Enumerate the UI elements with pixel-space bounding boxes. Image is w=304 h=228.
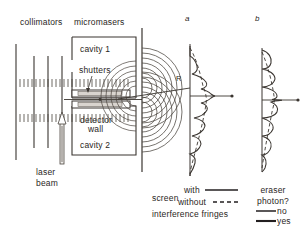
legend-sample-lines [205, 190, 276, 221]
figure-root: collimators micromasers cavity 1 shutter… [0, 0, 304, 228]
panel-b [262, 48, 300, 172]
spherical-wavefronts [142, 48, 182, 152]
panel-a [190, 44, 234, 176]
collimator-plates [16, 44, 62, 160]
laser-beam-arrow [58, 112, 66, 164]
diagram-canvas [0, 0, 304, 228]
